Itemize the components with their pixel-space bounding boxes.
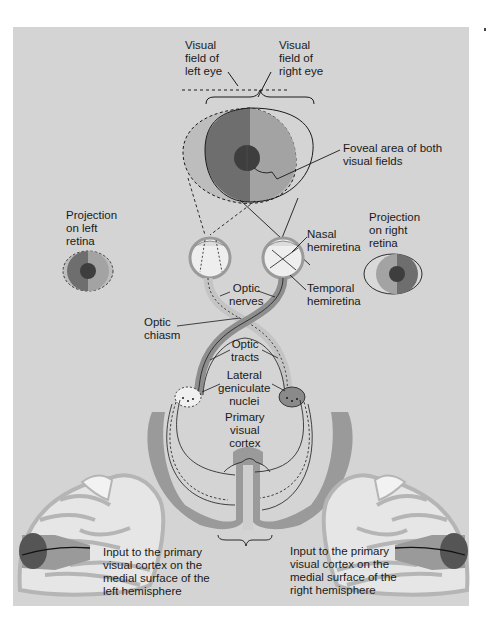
right-retina-projection [364,254,422,294]
label-optic-tracts: Optic tracts [231,338,259,364]
right-eyeball [263,238,303,278]
label-lateral-geniculate-nuclei: Lateral geniculate nuclei [218,369,270,408]
visual-pathway-illustration [0,0,487,623]
label-projection-left-retina: Projection on left retina [66,209,117,248]
label-foveal-area: Foveal area of both visual fields [343,142,442,168]
left-eyeball [190,238,230,278]
label-temporal-hemiretina: Temporal hemiretina [307,282,361,308]
label-nasal-hemiretina: Nasal hemiretina [307,228,361,254]
label-primary-visual-cortex: Primary visual cortex [225,411,265,450]
left-retina-projection [63,251,113,291]
visual-fields [183,108,340,203]
label-input-left-hemisphere: Input to the primary visual cortex on th… [103,546,210,598]
label-optic-nerves: Optic nerves [229,282,264,308]
label-visual-field-left-eye: Visual field of left eye [185,39,222,78]
label-optic-chiasm: Optic chiasm [144,316,180,342]
label-projection-right-retina: Projection on right retina [369,211,420,250]
label-input-right-hemisphere: Input to the primary visual cortex on th… [290,545,397,597]
label-visual-field-right-eye: Visual field of right eye [279,39,323,78]
